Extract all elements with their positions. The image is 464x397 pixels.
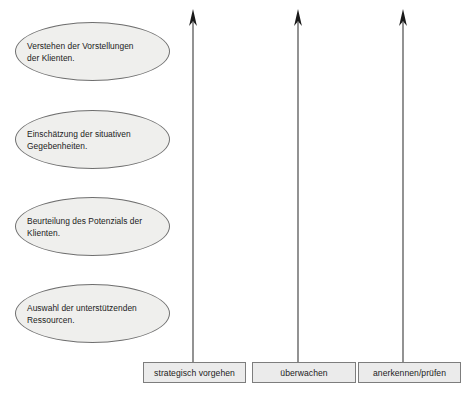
- process-ellipse-2[interactable]: Einschätzung der situativen Gegebenheite…: [15, 110, 170, 169]
- column-box-1-label: strategisch vorgehen: [154, 368, 235, 378]
- process-ellipse-4[interactable]: Auswahl der unterstützenden Ressourcen.: [15, 284, 170, 343]
- diagram-canvas: Verstehen der Vorstellungen der Klienten…: [0, 0, 464, 397]
- arrow-up-icon-column-1: [185, 0, 201, 366]
- process-ellipse-3[interactable]: Beurteilung des Potenzials der Klienten.: [15, 197, 170, 256]
- column-box-2-label: überwachen: [280, 368, 327, 378]
- arrow-up-icon-column-3: [395, 0, 411, 366]
- column-box-ueberwachen[interactable]: überwachen: [252, 362, 356, 383]
- column-box-3-label: anerkennen/prüfen: [373, 368, 446, 378]
- column-box-strategisch-vorgehen[interactable]: strategisch vorgehen: [143, 362, 246, 383]
- arrow-up-icon-column-2: [290, 0, 306, 366]
- process-ellipse-3-label: Beurteilung des Potenzials der Klienten.: [27, 214, 163, 239]
- column-box-anerkennen-pruefen[interactable]: anerkennen/prüfen: [358, 362, 461, 383]
- process-ellipse-4-label: Auswahl der unterstützenden Ressourcen.: [27, 301, 163, 326]
- process-ellipse-1[interactable]: Verstehen der Vorstellungen der Klienten…: [15, 22, 170, 81]
- process-ellipse-2-label: Einschätzung der situativen Gegebenheite…: [27, 127, 163, 152]
- process-ellipse-1-label: Verstehen der Vorstellungen der Klienten…: [27, 39, 163, 64]
